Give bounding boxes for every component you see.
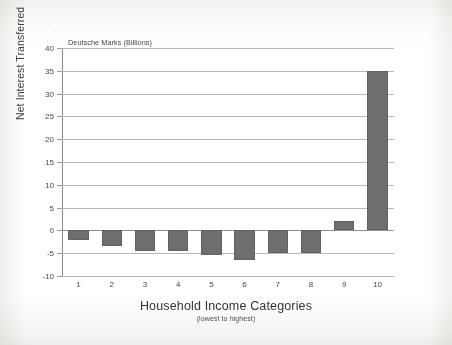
y-tick-label: 40: [45, 44, 54, 53]
bar: [102, 230, 123, 246]
bar: [234, 230, 255, 260]
bar: [334, 221, 355, 230]
x-tick-label: 1: [76, 280, 80, 289]
x-tick-label: 10: [373, 280, 382, 289]
y-tick-label: 0: [50, 226, 54, 235]
y-tick-label: 30: [45, 89, 54, 98]
x-tick-label: 5: [209, 280, 213, 289]
bar: [301, 230, 322, 253]
x-tick-label: 2: [110, 280, 114, 289]
bar: [367, 71, 388, 231]
bar: [168, 230, 189, 251]
bar: [268, 230, 289, 253]
x-axis-tick-labels: 12345678910: [62, 280, 394, 294]
x-tick-label: 6: [242, 280, 246, 289]
y-tick-label: 10: [45, 180, 54, 189]
y-tick-label: 20: [45, 135, 54, 144]
bar-series: [62, 48, 394, 276]
y-tick-label: -10: [42, 272, 54, 281]
x-tick-label: 9: [342, 280, 346, 289]
scanned-page: Net Interest Transferred Deutsche Marks …: [0, 0, 452, 345]
x-tick-label: 8: [309, 280, 313, 289]
bar-chart: Net Interest Transferred Deutsche Marks …: [0, 0, 452, 345]
bar: [68, 230, 89, 239]
y-tick-label: 25: [45, 112, 54, 121]
bar: [201, 230, 222, 255]
y-tick-mark: [57, 276, 62, 277]
y-tick-label: -5: [47, 249, 54, 258]
bar: [135, 230, 156, 251]
x-axis-subtitle: (lowest to highest): [0, 315, 452, 322]
y-tick-label: 15: [45, 158, 54, 167]
x-tick-label: 4: [176, 280, 180, 289]
y-tick-label: 5: [50, 203, 54, 212]
y-tick-label: 35: [45, 66, 54, 75]
plot-area: 4035302520151050-5-10: [62, 48, 394, 276]
x-tick-label: 7: [276, 280, 280, 289]
y-axis-title: Net Interest Transferred: [14, 0, 26, 120]
chart-unit-note: Deutsche Marks (Billions): [68, 38, 152, 47]
x-tick-label: 3: [143, 280, 147, 289]
x-axis-title: Household Income Categories: [0, 299, 452, 313]
gridline: -10: [62, 276, 394, 277]
